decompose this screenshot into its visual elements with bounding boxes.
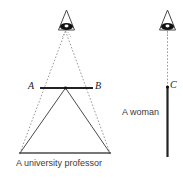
- sight-line-right: [66, 31, 111, 153]
- point-label-a: A: [28, 81, 34, 91]
- eye-icon-leg-right: [67, 30, 72, 38]
- sight-line-left: [20, 31, 66, 153]
- base-right-point: [109, 152, 111, 154]
- point-label-c: C: [170, 80, 177, 90]
- base-left-point: [19, 152, 21, 154]
- caption-university-professor: A university professor: [16, 159, 102, 168]
- triangle-side-left: [20, 88, 66, 153]
- point-label-b: B: [95, 81, 101, 91]
- eye-icon: [59, 10, 75, 38]
- triangle-side-right: [66, 88, 111, 153]
- eye-icon-pupil-highlight: [65, 25, 69, 28]
- eye-icon-pupil-highlight: [166, 25, 170, 28]
- vertex-point: [64, 87, 67, 90]
- caption-woman: A woman: [122, 108, 159, 117]
- eye-icon: [160, 10, 176, 38]
- point-c-marker: [166, 85, 169, 88]
- perspective-diagram-figure: A B C A university professor A woman: [0, 0, 183, 180]
